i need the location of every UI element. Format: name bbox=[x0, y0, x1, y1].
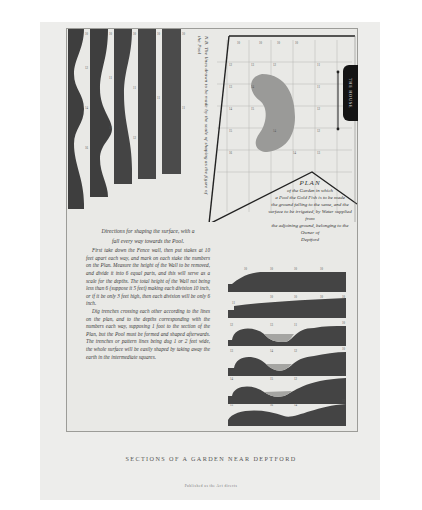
directions-text: Directions for shaping the surface, with… bbox=[86, 228, 210, 361]
plan-caption-line: Deptford bbox=[265, 236, 355, 243]
plate-title: SECTIONS OF A GARDEN NEAR DEPTFORD bbox=[0, 455, 422, 462]
svg-text:11: 11 bbox=[294, 323, 297, 327]
svg-text:10: 10 bbox=[244, 267, 248, 271]
plan-caption-line: surface to be irrigated, by Water suppli… bbox=[265, 208, 355, 222]
svg-text:13: 13 bbox=[317, 151, 321, 155]
svg-text:12: 12 bbox=[342, 399, 346, 403]
svg-text:12: 12 bbox=[294, 377, 298, 381]
svg-text:11: 11 bbox=[342, 373, 345, 377]
plan-caption: PLAN of the Garden in which a Pool the G… bbox=[265, 180, 355, 243]
svg-text:10: 10 bbox=[295, 41, 299, 45]
svg-text:15: 15 bbox=[251, 107, 255, 111]
svg-text:11: 11 bbox=[317, 85, 320, 89]
svg-text:10: 10 bbox=[237, 41, 241, 45]
svg-text:12: 12 bbox=[273, 63, 277, 67]
svg-text:10: 10 bbox=[157, 32, 161, 36]
svg-text:11: 11 bbox=[232, 301, 235, 305]
svg-text:11: 11 bbox=[109, 76, 112, 80]
svg-text:15: 15 bbox=[229, 129, 233, 133]
svg-text:10: 10 bbox=[109, 32, 113, 36]
plan-caption-line: a Pool the Gold Fish is to be made bbox=[265, 194, 355, 201]
directions-paragraph: Dig trenches crossing each other accordi… bbox=[86, 308, 210, 361]
svg-text:10: 10 bbox=[277, 41, 281, 45]
svg-text:10: 10 bbox=[342, 321, 346, 325]
svg-text:10: 10 bbox=[294, 267, 298, 271]
svg-text:11: 11 bbox=[157, 96, 160, 100]
svg-text:10: 10 bbox=[320, 267, 324, 271]
svg-text:12: 12 bbox=[230, 323, 234, 327]
svg-text:12: 12 bbox=[133, 136, 137, 140]
svg-text:11: 11 bbox=[317, 63, 320, 67]
svg-text:10: 10 bbox=[294, 295, 298, 299]
svg-text:13: 13 bbox=[229, 85, 233, 89]
svg-text:12: 12 bbox=[317, 107, 321, 111]
plan-caption-title: PLAN bbox=[265, 180, 355, 187]
plan-caption-line: the adjoining ground, belonging to the O… bbox=[265, 222, 355, 236]
svg-text:16: 16 bbox=[85, 146, 89, 150]
svg-text:14: 14 bbox=[85, 106, 89, 110]
svg-text:14: 14 bbox=[230, 377, 234, 381]
svg-text:14: 14 bbox=[293, 151, 297, 155]
svg-text:10: 10 bbox=[342, 295, 346, 299]
svg-text:13: 13 bbox=[109, 126, 113, 130]
vertical-section-strips: 10121416 101113 101112 1011 1011 bbox=[68, 29, 186, 221]
plate-imprint: Published as the Act directs bbox=[0, 484, 422, 488]
svg-text:10: 10 bbox=[85, 32, 89, 36]
directions-paragraph: First take down the Fence wall, then put… bbox=[86, 247, 210, 308]
svg-text:11: 11 bbox=[133, 86, 136, 90]
svg-text:12: 12 bbox=[85, 66, 89, 70]
svg-text:13: 13 bbox=[270, 323, 274, 327]
svg-text:15: 15 bbox=[230, 403, 234, 407]
plan-caption-line: the ground falling to the same, and the bbox=[265, 201, 355, 208]
svg-text:12: 12 bbox=[294, 349, 298, 353]
svg-text:13: 13 bbox=[251, 63, 255, 67]
svg-text:15: 15 bbox=[270, 377, 274, 381]
svg-text:10: 10 bbox=[270, 295, 274, 299]
svg-text:10: 10 bbox=[342, 347, 346, 351]
horizontal-sections: 10101010 1110101010 12131110 13141210 14… bbox=[224, 256, 348, 426]
svg-text:10: 10 bbox=[133, 32, 137, 36]
svg-text:14: 14 bbox=[229, 107, 233, 111]
svg-text:16: 16 bbox=[229, 151, 233, 155]
svg-text:12: 12 bbox=[317, 129, 321, 133]
svg-text:13: 13 bbox=[230, 349, 234, 353]
svg-text:14: 14 bbox=[251, 85, 255, 89]
svg-text:12: 12 bbox=[229, 63, 233, 67]
directions-heading-2: fall every way towards the Pool. bbox=[86, 238, 210, 246]
house-block: THE HOUSE bbox=[343, 65, 358, 121]
svg-text:14: 14 bbox=[270, 349, 274, 353]
svg-text:10: 10 bbox=[320, 295, 324, 299]
plan-caption-line: of the Garden in which bbox=[265, 187, 355, 194]
directions-heading-1: Directions for shaping the surface, with… bbox=[86, 228, 210, 236]
svg-text:14: 14 bbox=[273, 129, 277, 133]
svg-text:10: 10 bbox=[259, 41, 263, 45]
svg-text:10: 10 bbox=[270, 267, 274, 271]
svg-text:16: 16 bbox=[270, 403, 274, 407]
svg-text:14: 14 bbox=[294, 403, 298, 407]
